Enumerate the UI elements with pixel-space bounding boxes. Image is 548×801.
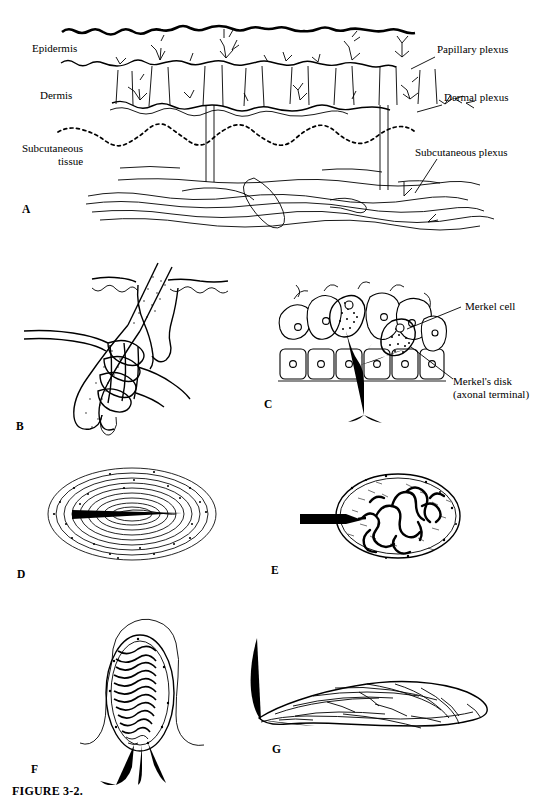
panel-letter-d: D — [17, 568, 25, 580]
panel-a-leader-lines — [395, 35, 548, 195]
panel-letter-e: E — [271, 564, 279, 576]
label-subcutaneous-tissue-line1: Subcutaneous — [22, 142, 83, 155]
panel-f-meissner-corpuscle — [78, 615, 248, 785]
label-subcutaneous-tissue-line2: tissue — [58, 155, 83, 168]
panel-letter-b: B — [16, 420, 24, 432]
panel-d-pacinian-corpuscle — [14, 462, 234, 574]
panel-letter-f: F — [31, 763, 38, 775]
label-dermis: Dermis — [40, 89, 72, 102]
panel-g-nerve-plate-receptor — [235, 630, 525, 750]
panel-letter-g: G — [272, 743, 281, 755]
figure-3-2: Epidermis Dermis Subcutaneous tissue Pap… — [0, 0, 548, 801]
panel-e-ruffini-ending — [300, 464, 480, 574]
label-epidermis: Epidermis — [32, 42, 77, 55]
panel-letter-c: C — [264, 398, 272, 410]
panel-c-leader-lines — [395, 295, 548, 405]
figure-caption: FIGURE 3-2. — [12, 784, 83, 799]
panel-letter-a: A — [22, 203, 30, 215]
panel-b-hair-follicle-receptor — [20, 255, 230, 445]
